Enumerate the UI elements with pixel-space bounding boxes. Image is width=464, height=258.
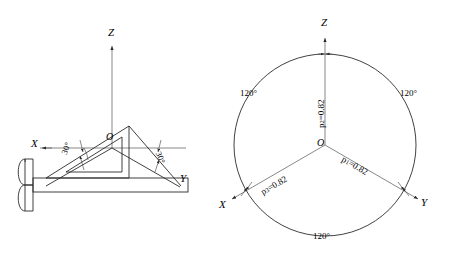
right-angle-label-bottom: 120° xyxy=(313,231,330,241)
p2-subscript: 2 xyxy=(318,120,325,123)
left-origin-label: O xyxy=(106,131,113,142)
coefficient-label-p2: p2=0.82 xyxy=(316,99,326,128)
right-axis-label-x: X xyxy=(219,198,226,210)
right-x-axis-line xyxy=(232,145,325,199)
p2-value: 0.82 xyxy=(316,99,326,115)
right-angle-label-right: 120° xyxy=(400,88,417,98)
left-axis-label-x: X xyxy=(31,137,38,149)
right-diagram-group xyxy=(232,38,418,236)
left-diagram-group xyxy=(18,46,188,211)
left-x-axis-line xyxy=(46,148,112,186)
t-square-head-curve-bottom xyxy=(18,185,25,211)
left-angle-arrow-left-upper xyxy=(80,140,83,152)
t-square-head-upper xyxy=(25,159,33,185)
t-square-head-lower xyxy=(25,185,33,211)
figure-canvas xyxy=(0,0,464,258)
right-origin-label: O xyxy=(317,137,324,148)
p2-equals: = xyxy=(316,115,326,120)
t-square xyxy=(18,159,188,211)
x-dim-arrow-b xyxy=(241,188,247,196)
set-square-inner-cutout xyxy=(66,137,122,172)
right-angle-label-left: 120° xyxy=(240,88,257,98)
right-y-axis-line xyxy=(325,145,418,199)
left-axis-label-z: Z xyxy=(108,26,114,38)
right-axis-label-z: Z xyxy=(321,16,327,28)
y-dim-arrow-b xyxy=(403,188,409,196)
right-axis-label-y: Y xyxy=(421,196,427,208)
left-axis-label-y: Y xyxy=(180,172,186,184)
p2-symbol: p xyxy=(316,124,326,129)
t-square-head-curve-top xyxy=(18,159,25,185)
technical-drawing-figure: Z X Y O 30° 30° Z X Y O 120° 120° 120° p… xyxy=(0,0,464,258)
